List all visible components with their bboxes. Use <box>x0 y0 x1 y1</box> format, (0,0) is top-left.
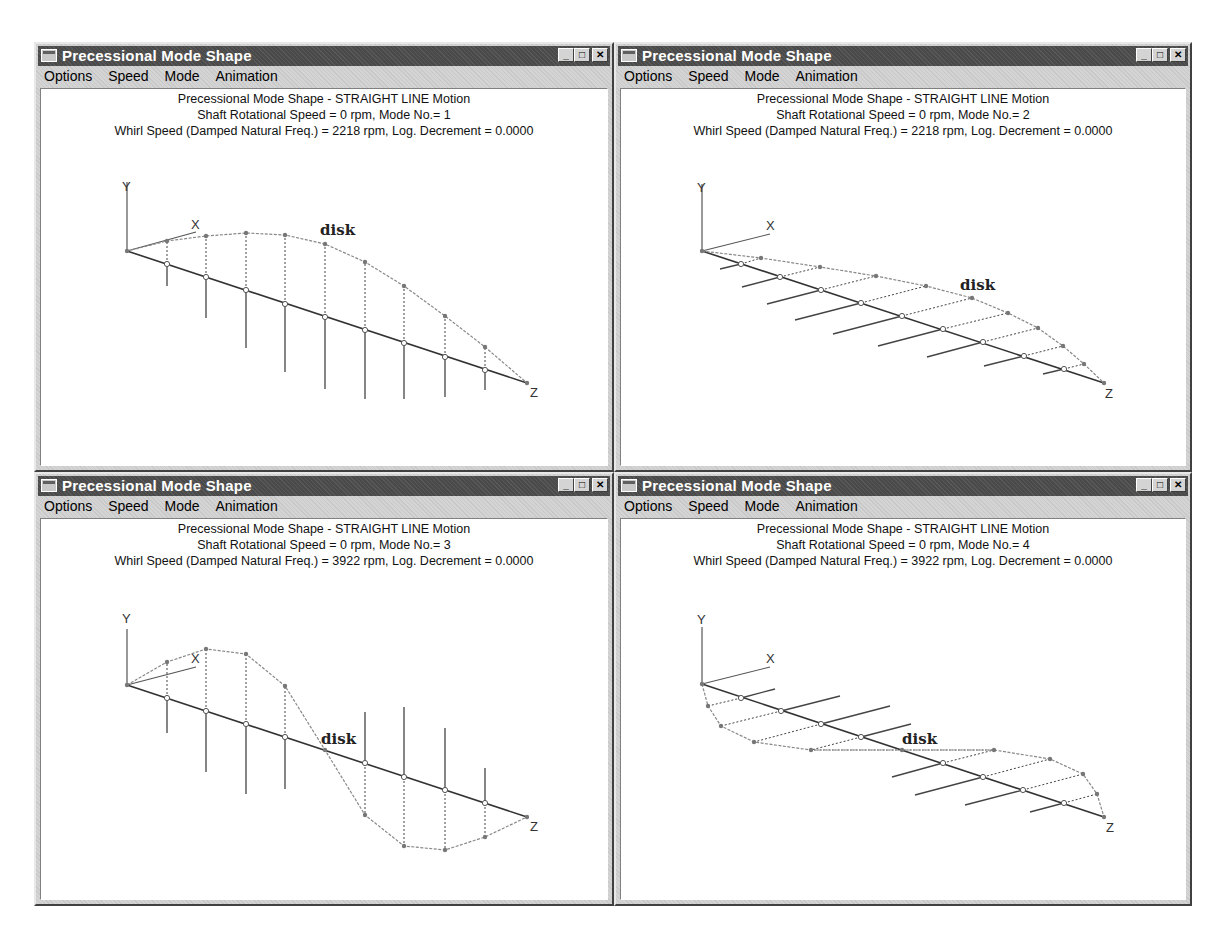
mode-shape-window-2: Precessional Mode Shape _ □ ✕ Options Sp… <box>614 42 1192 472</box>
disk-label: disk <box>320 221 356 239</box>
close-icon[interactable]: ✕ <box>1170 478 1186 492</box>
menu-speed[interactable]: Speed <box>108 67 148 86</box>
minimize-icon[interactable]: _ <box>558 48 574 62</box>
mode-shape-plot: Y X Z <box>621 519 1186 900</box>
menu-bar: Options Speed Mode Animation <box>38 67 610 86</box>
menu-mode[interactable]: Mode <box>165 497 200 516</box>
menu-speed[interactable]: Speed <box>688 67 728 86</box>
z-axis-label: Z <box>530 385 538 400</box>
maximize-icon[interactable]: □ <box>1152 478 1168 492</box>
title-bar[interactable]: Precessional Mode Shape _ □ ✕ <box>38 476 610 496</box>
y-axis-label: Y <box>697 612 706 627</box>
menu-animation[interactable]: Animation <box>795 67 857 86</box>
z-axis-label: Z <box>1106 820 1114 835</box>
mode-shape-plot: Y X Z <box>41 89 608 466</box>
disk-label: disk <box>902 730 938 748</box>
menu-options[interactable]: Options <box>44 497 92 516</box>
title-bar[interactable]: Precessional Mode Shape _ □ ✕ <box>618 46 1188 66</box>
z-axis-label: Z <box>530 819 538 834</box>
menu-options[interactable]: Options <box>624 497 672 516</box>
app-window-icon[interactable] <box>41 479 57 492</box>
app-window-icon[interactable] <box>41 49 57 62</box>
menu-mode[interactable]: Mode <box>745 67 780 86</box>
menu-speed[interactable]: Speed <box>688 497 728 516</box>
maximize-icon[interactable]: □ <box>1152 48 1168 62</box>
close-icon[interactable]: ✕ <box>592 48 608 62</box>
x-axis-label: X <box>191 217 200 232</box>
mode-shape-window-1: Precessional Mode Shape _ □ ✕ Options Sp… <box>34 42 614 472</box>
menu-bar: Options Speed Mode Animation <box>618 67 1188 86</box>
plot-area: Precessional Mode Shape - STRAIGHT LINE … <box>620 518 1186 900</box>
menu-bar: Options Speed Mode Animation <box>618 497 1188 516</box>
title-bar[interactable]: Precessional Mode Shape _ □ ✕ <box>38 46 610 66</box>
minimize-icon[interactable]: _ <box>1136 48 1152 62</box>
close-icon[interactable]: ✕ <box>1170 48 1186 62</box>
menu-mode[interactable]: Mode <box>745 497 780 516</box>
z-axis-label: Z <box>1105 386 1113 401</box>
mode-shape-window-3: Precessional Mode Shape _ □ ✕ Options Sp… <box>34 472 614 906</box>
maximize-icon[interactable]: □ <box>574 478 590 492</box>
plot-area: Precessional Mode Shape - STRAIGHT LINE … <box>40 88 608 466</box>
window-title: Precessional Mode Shape <box>62 46 252 66</box>
title-bar[interactable]: Precessional Mode Shape _ □ ✕ <box>618 476 1188 496</box>
window-title: Precessional Mode Shape <box>62 476 252 496</box>
menu-options[interactable]: Options <box>44 67 92 86</box>
mode-shape-plot: Y X Z <box>41 519 608 900</box>
disk-label: disk <box>321 730 357 748</box>
menu-animation[interactable]: Animation <box>215 67 277 86</box>
mode-shape-window-4: Precessional Mode Shape _ □ ✕ Options Sp… <box>614 472 1192 906</box>
mode-shape-plot: Y X Z <box>621 89 1186 466</box>
y-axis-label: Y <box>697 180 706 195</box>
plot-area: Precessional Mode Shape - STRAIGHT LINE … <box>40 518 608 900</box>
maximize-icon[interactable]: □ <box>574 48 590 62</box>
minimize-icon[interactable]: _ <box>1136 478 1152 492</box>
menu-speed[interactable]: Speed <box>108 497 148 516</box>
plot-area: Precessional Mode Shape - STRAIGHT LINE … <box>620 88 1186 466</box>
window-title: Precessional Mode Shape <box>642 46 832 66</box>
minimize-icon[interactable]: _ <box>558 478 574 492</box>
y-axis-label: Y <box>122 611 131 626</box>
menu-bar: Options Speed Mode Animation <box>38 497 610 516</box>
menu-options[interactable]: Options <box>624 67 672 86</box>
menu-mode[interactable]: Mode <box>165 67 200 86</box>
shaft-line <box>127 685 527 817</box>
menu-animation[interactable]: Animation <box>215 497 277 516</box>
app-window-icon[interactable] <box>621 479 637 492</box>
disk-label: disk <box>960 276 996 294</box>
app-window-icon[interactable] <box>621 49 637 62</box>
close-icon[interactable]: ✕ <box>592 478 608 492</box>
y-axis-label: Y <box>122 179 131 194</box>
x-axis-label: X <box>766 218 775 233</box>
x-axis-label: X <box>766 651 775 666</box>
window-title: Precessional Mode Shape <box>642 476 832 496</box>
menu-animation[interactable]: Animation <box>795 497 857 516</box>
